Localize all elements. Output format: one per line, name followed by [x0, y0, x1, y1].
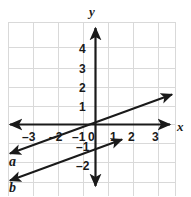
- y-tick-pos2: 2: [79, 82, 86, 94]
- x-tick-neg2: –2: [49, 131, 62, 143]
- line-b-label: b: [9, 181, 16, 195]
- x-tick-pos2: 2: [128, 131, 135, 143]
- y-tick-neg1: –1: [76, 141, 89, 153]
- y-tick-pos1: 1: [79, 101, 86, 113]
- x-tick-pos3: 3: [152, 131, 159, 143]
- y-tick-pos4: 4: [79, 43, 86, 55]
- x-tick-neg3: –3: [22, 131, 35, 143]
- grid-lines: [8, 23, 176, 197]
- x-axis-label: x: [177, 120, 184, 133]
- line-a-label: a: [9, 155, 16, 169]
- graph-canvas: [0, 0, 191, 196]
- y-axis-label: y: [89, 5, 95, 18]
- coordinate-plane-figure: x y –3 –2 –1 0 1 2 3 1 2 3 4 –1 –2 a b: [0, 0, 191, 196]
- y-tick-neg2: –2: [76, 160, 89, 172]
- y-tick-pos3: 3: [79, 63, 86, 75]
- x-tick-pos1: 1: [110, 131, 117, 143]
- line-b: [10, 140, 122, 181]
